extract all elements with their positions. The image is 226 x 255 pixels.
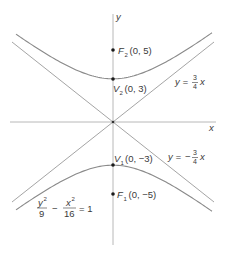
vertex-v2-point: [111, 77, 115, 81]
hyperbola-diagram: y x F 2 (0, 5) V 2 (0, 3) V 1 (0, −3) F …: [0, 0, 226, 255]
svg-text:4: 4: [193, 83, 197, 90]
svg-text:(0, −3): (0, −3): [125, 153, 153, 164]
origin-point: [112, 121, 115, 124]
hyperbola-upper-branch: [16, 33, 212, 79]
svg-text:y =: y =: [167, 151, 181, 162]
vertex-v2-label: V 2 (0, 3): [113, 83, 147, 96]
svg-text:2: 2: [44, 196, 48, 202]
hyperbola-lower-branch: [16, 165, 212, 211]
focus-f2-label: F 2 (0, 5): [118, 45, 152, 58]
svg-text:9: 9: [39, 208, 44, 219]
focus-f1-label: F 1 (0, −5): [117, 189, 156, 202]
svg-text:1: 1: [121, 160, 125, 166]
svg-text:−: −: [185, 151, 191, 162]
svg-text:4: 4: [193, 158, 197, 165]
vertex-v1-label: V 1 (0, −3): [114, 153, 153, 166]
asymptote-positive-label: y = 3 4 x: [174, 74, 206, 90]
x-axis-label: x: [208, 122, 215, 133]
focus-f2-point: [111, 48, 115, 52]
svg-text:16: 16: [64, 208, 75, 219]
svg-text:= 1: = 1: [79, 203, 92, 214]
y-axis-label: y: [115, 11, 122, 22]
svg-text:x: x: [199, 151, 206, 162]
svg-text:y =: y =: [174, 76, 188, 87]
svg-text:(0, 3): (0, 3): [125, 83, 147, 94]
svg-text:2: 2: [72, 196, 76, 202]
hyperbola-equation: y 2 9 − x 2 16 = 1: [37, 196, 92, 219]
svg-text:3: 3: [193, 74, 197, 81]
svg-text:3: 3: [193, 149, 197, 156]
svg-text:1: 1: [124, 196, 128, 202]
svg-text:(0, −5): (0, −5): [129, 189, 157, 200]
svg-text:x: x: [199, 76, 206, 87]
focus-f1-point: [111, 192, 115, 196]
svg-text:(0, 5): (0, 5): [130, 45, 152, 56]
asymptote-negative-label: y = − 3 4 x: [167, 149, 206, 165]
svg-text:2: 2: [120, 90, 124, 96]
svg-text:2: 2: [125, 52, 129, 58]
svg-text:−: −: [52, 203, 58, 214]
